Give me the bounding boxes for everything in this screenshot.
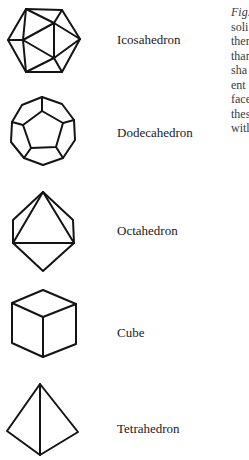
caption-line: ent <box>231 78 249 93</box>
cube-label: Cube <box>117 325 144 341</box>
tetrahedron-label: Tetrahedron <box>117 421 180 437</box>
icosahedron-label: Icosahedron <box>117 32 181 48</box>
caption-line: sha <box>231 63 249 78</box>
polyhedra-drawings <box>0 0 110 460</box>
octahedron-label: Octahedron <box>117 223 178 239</box>
caption-line: than <box>231 49 249 64</box>
cube-drawing <box>12 290 76 357</box>
caption-line: soli <box>231 20 249 35</box>
tetrahedron-drawing <box>7 384 78 455</box>
figure-caption: Fig. soli ther than sha ent face thes wi… <box>231 5 249 136</box>
icosahedron-drawing <box>8 9 80 72</box>
caption-line: face <box>231 92 249 107</box>
caption-line: witl <box>231 121 249 136</box>
dodecahedron-drawing <box>11 97 75 165</box>
caption-line: thes <box>231 107 249 122</box>
caption-fig-label: Fig. <box>231 5 249 20</box>
caption-line: ther <box>231 34 249 49</box>
octahedron-drawing <box>13 192 74 271</box>
dodecahedron-label: Dodecahedron <box>117 125 193 141</box>
